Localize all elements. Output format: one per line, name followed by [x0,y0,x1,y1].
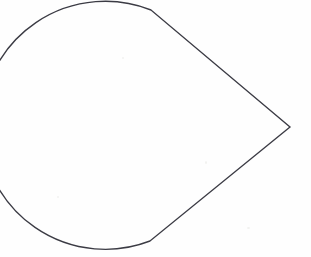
figure-canvas [0,0,311,257]
sector-outline-path [0,1,290,249]
shape-svg [0,0,311,257]
